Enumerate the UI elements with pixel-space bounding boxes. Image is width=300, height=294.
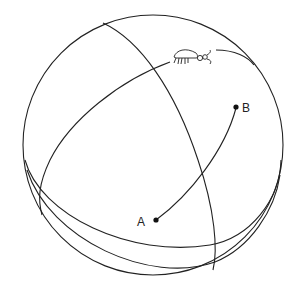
- great-circle-bottom-band: [27, 170, 280, 268]
- point-b-label: B: [242, 101, 250, 115]
- sphere-diagram: A B: [0, 0, 300, 294]
- sphere-outline: [23, 15, 283, 275]
- great-circle-lower-band: [25, 160, 281, 247]
- great-circle-bug-path: [40, 62, 170, 215]
- geodesic-a-to-b: [156, 108, 236, 220]
- point-a: [153, 217, 158, 222]
- great-circle-bug-path-continued: [216, 50, 254, 65]
- bug-icon: [174, 50, 211, 64]
- point-a-label: A: [137, 215, 145, 229]
- point-b: [233, 104, 238, 109]
